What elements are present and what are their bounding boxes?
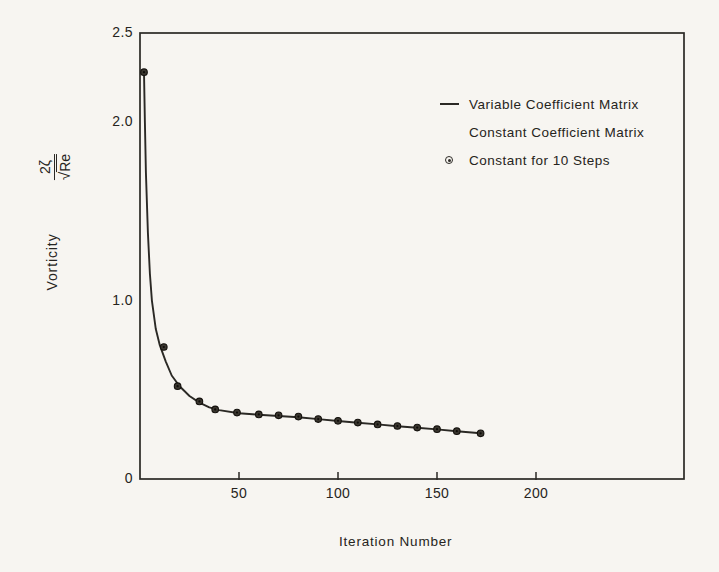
y-tick-label: 2.0 bbox=[97, 113, 133, 129]
legend: Variable Coefficient Matrix Constant Coe… bbox=[436, 90, 644, 174]
formula-denominator: √Re bbox=[55, 154, 73, 180]
x-tick-label: 100 bbox=[321, 485, 355, 501]
x-tick-label: 50 bbox=[222, 485, 256, 501]
y-tick-label: 1.0 bbox=[97, 292, 133, 308]
formula-numerator: 2ζ bbox=[37, 154, 55, 180]
plot-svg bbox=[0, 0, 719, 572]
y-axis-formula: 2ζ √Re bbox=[37, 154, 73, 180]
legend-entry-variable-coefficient: Variable Coefficient Matrix bbox=[436, 90, 644, 118]
radicand: Re bbox=[56, 154, 73, 172]
y-tick-label: 2.5 bbox=[97, 24, 133, 40]
x-tick-label: 200 bbox=[519, 485, 553, 501]
figure-canvas: 2.5 2.0 1.0 0 50 100 150 200 2ζ √Re Vort… bbox=[0, 0, 719, 572]
legend-line-sample bbox=[436, 103, 462, 105]
legend-entry-constant-coefficient: Constant Coefficient Matrix bbox=[436, 118, 644, 146]
legend-label: Constant for 10 Steps bbox=[469, 153, 610, 168]
y-axis-title: Vorticity bbox=[44, 233, 60, 290]
circle-marker-icon bbox=[445, 156, 453, 164]
legend-marker-sample bbox=[436, 156, 462, 164]
radical-sign: √ bbox=[56, 172, 73, 180]
solid-line-icon bbox=[440, 103, 459, 105]
legend-label: Variable Coefficient Matrix bbox=[469, 97, 639, 112]
circle-marker-dot bbox=[448, 159, 451, 162]
legend-entry-constant-10-steps: Constant for 10 Steps bbox=[436, 146, 644, 174]
y-tick-label: 0 bbox=[97, 470, 133, 486]
x-tick-label: 150 bbox=[420, 485, 454, 501]
legend-label: Constant Coefficient Matrix bbox=[469, 125, 644, 140]
x-axis-title: Iteration Number bbox=[339, 534, 452, 549]
